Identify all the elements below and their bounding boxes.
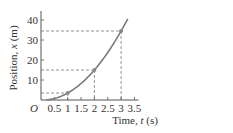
y-tick-label: 40: [27, 14, 39, 26]
x-tick-label: 1.5: [74, 102, 88, 114]
y-tick-label: 30: [27, 34, 39, 46]
x-tick-label: 2.5: [101, 102, 115, 114]
data-point: [66, 91, 70, 95]
x-tick-label: 3.5: [128, 102, 142, 114]
y-tick-label: 20: [27, 54, 39, 66]
data-point: [119, 29, 123, 33]
x-tick-label: 3: [118, 102, 124, 114]
data-point: [92, 68, 96, 72]
x-tick-label: 2: [92, 102, 98, 114]
x-axis-label: Time, t (s): [112, 114, 158, 127]
x-tick-label: 0.5: [47, 102, 61, 114]
origin-label: O: [30, 102, 38, 114]
x-tick-label: 1: [65, 102, 71, 114]
y-tick-label: 10: [27, 74, 39, 86]
position-time-chart: 0.511.522.533.510203040OTime, t (s)Posit…: [0, 0, 233, 133]
y-axis-label: Position, x (m): [7, 25, 20, 90]
